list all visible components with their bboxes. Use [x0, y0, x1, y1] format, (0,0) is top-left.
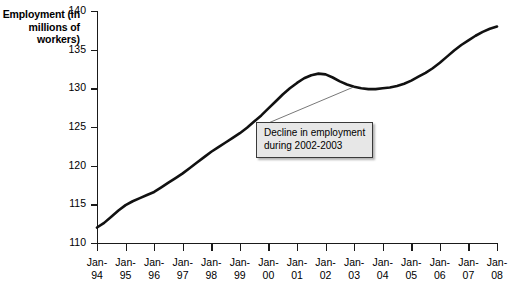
annotation-callout: Decline in employment during 2002-2003: [256, 122, 373, 158]
annotation-leader-line: [266, 87, 354, 124]
annotation-line-1: Decline in employment: [264, 127, 365, 140]
employment-line-chart: Employment (in millions of workers) 140 …: [0, 0, 527, 285]
annotation-line-2: during 2002-2003: [264, 140, 365, 153]
